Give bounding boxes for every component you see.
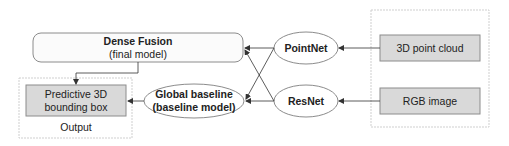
predictive-box-line1: Predictive 3D xyxy=(45,88,108,100)
point-cloud-label: 3D point cloud xyxy=(396,42,463,54)
dense-fusion-node: Dense Fusion (final model) xyxy=(33,33,243,62)
edge-pointnet-globalbaseline xyxy=(246,48,274,99)
global-baseline-node: Global baseline (baseline model) xyxy=(144,84,244,118)
pointnet-label: PointNet xyxy=(284,42,328,54)
predictive-box-line2: bounding box xyxy=(44,101,108,113)
global-baseline-line2: (baseline model) xyxy=(153,101,236,113)
resnet-label: ResNet xyxy=(288,95,325,107)
global-baseline-line1: Global baseline xyxy=(155,88,233,100)
dense-fusion-subtitle: (final model) xyxy=(109,48,167,60)
output-label: Output xyxy=(60,121,92,133)
edge-densefusion-predictive xyxy=(76,62,138,84)
resnet-node: ResNet xyxy=(274,85,338,117)
rgb-image-label: RGB image xyxy=(403,95,457,107)
rgb-image-node: RGB image xyxy=(380,88,480,114)
predictive-box-node: Predictive 3D bounding box xyxy=(26,85,126,116)
pointnet-node: PointNet xyxy=(274,32,338,64)
point-cloud-node: 3D point cloud xyxy=(380,35,480,61)
diagram-canvas: 3D point cloud RGB image PointNet ResNet… xyxy=(0,0,509,146)
dense-fusion-title: Dense Fusion xyxy=(104,35,173,47)
